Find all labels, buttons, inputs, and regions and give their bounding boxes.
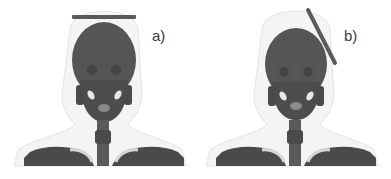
plate-horizontal: [72, 15, 136, 19]
panel-b: b): [196, 0, 391, 179]
panel-label-b: b): [344, 27, 357, 44]
head-model-illustration: [0, 0, 195, 179]
head-model-illustration: [196, 0, 391, 179]
panel-a: a): [0, 0, 195, 179]
panel-label-a: a): [152, 27, 165, 44]
